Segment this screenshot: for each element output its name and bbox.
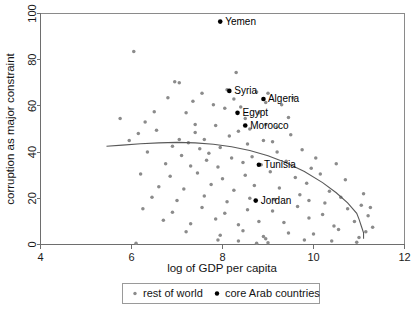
data-point-rest-of-world bbox=[262, 139, 266, 143]
data-point-rest-of-world bbox=[248, 197, 252, 201]
data-point-rest-of-world bbox=[191, 100, 195, 104]
x-tick-label: 10 bbox=[307, 251, 319, 263]
data-point-rest-of-world bbox=[150, 195, 154, 199]
data-point-rest-of-world bbox=[289, 133, 293, 137]
data-point-rest-of-world bbox=[146, 150, 150, 154]
data-point-rest-of-world bbox=[346, 207, 350, 211]
data-point-rest-of-world bbox=[307, 199, 311, 203]
data-point-tunisia bbox=[257, 163, 262, 168]
data-point-rest-of-world bbox=[355, 240, 359, 244]
data-point-rest-of-world bbox=[218, 146, 222, 150]
data-point-rest-of-world bbox=[312, 232, 316, 236]
data-point-rest-of-world bbox=[225, 200, 229, 204]
y-tick-label: 80 bbox=[26, 54, 38, 66]
data-point-morocco bbox=[243, 123, 248, 128]
x-axis-ticks: 4681012 bbox=[37, 245, 410, 263]
y-tick-label: 60 bbox=[26, 100, 38, 112]
data-point-rest-of-world bbox=[344, 178, 348, 182]
data-point-rest-of-world bbox=[164, 162, 168, 166]
data-point-rest-of-world bbox=[189, 222, 193, 226]
y-axis-ticks: 020406080100 bbox=[26, 4, 40, 247]
data-point-rest-of-world bbox=[371, 225, 375, 229]
data-point-rest-of-world bbox=[264, 101, 268, 105]
data-point-rest-of-world bbox=[155, 128, 159, 132]
data-point-rest-of-world bbox=[271, 140, 275, 144]
data-point-rest-of-world bbox=[166, 96, 170, 100]
data-point-rest-of-world bbox=[314, 156, 318, 160]
data-point-label-algeria: Algeria bbox=[268, 93, 300, 104]
data-point-rest-of-world bbox=[362, 192, 366, 196]
data-point-algeria bbox=[261, 97, 266, 102]
legend-marker-core-arab-countries bbox=[215, 291, 219, 295]
data-point-rest-of-world bbox=[184, 111, 188, 115]
y-tick-label: 100 bbox=[26, 4, 38, 22]
plot-frame bbox=[41, 14, 405, 245]
data-point-rest-of-world bbox=[266, 241, 270, 245]
data-point-rest-of-world bbox=[287, 231, 291, 235]
data-point-rest-of-world bbox=[287, 116, 291, 120]
data-point-rest-of-world bbox=[196, 171, 200, 175]
data-point-rest-of-world bbox=[246, 142, 250, 146]
x-tick-label: 6 bbox=[128, 251, 134, 263]
data-point-rest-of-world bbox=[168, 175, 172, 179]
chart-figure: 020406080100 4681012 YemenSyriaAlgeriaEg… bbox=[0, 0, 420, 314]
data-point-rest-of-world bbox=[246, 208, 250, 212]
data-point-rest-of-world bbox=[237, 130, 241, 134]
data-point-rest-of-world bbox=[198, 147, 202, 151]
y-tick-label: 20 bbox=[26, 192, 38, 204]
data-point-rest-of-world bbox=[232, 188, 236, 192]
y-tick-label: 40 bbox=[26, 146, 38, 158]
data-point-rest-of-world bbox=[241, 229, 245, 233]
data-point-rest-of-world bbox=[257, 220, 261, 224]
data-point-rest-of-world bbox=[178, 138, 182, 142]
data-point-rest-of-world bbox=[214, 124, 218, 128]
y-tick-label: 0 bbox=[26, 241, 38, 247]
data-point-syria bbox=[227, 89, 232, 94]
data-point-rest-of-world bbox=[323, 201, 327, 205]
data-point-rest-of-world bbox=[171, 210, 175, 214]
data-point-rest-of-world bbox=[209, 183, 213, 187]
legend-label-core-arab-countries: core Arab countries bbox=[225, 287, 320, 299]
data-point-rest-of-world bbox=[271, 209, 275, 213]
x-tick-label: 4 bbox=[37, 251, 43, 263]
data-point-rest-of-world bbox=[134, 242, 138, 246]
data-point-rest-of-world bbox=[360, 203, 364, 207]
data-point-rest-of-world bbox=[335, 162, 339, 166]
x-tick-label: 12 bbox=[398, 251, 410, 263]
data-point-rest-of-world bbox=[223, 106, 227, 110]
data-point-rest-of-world bbox=[319, 172, 323, 176]
data-point-rest-of-world bbox=[337, 228, 341, 232]
data-point-rest-of-world bbox=[132, 50, 136, 54]
data-point-rest-of-world bbox=[366, 214, 370, 218]
data-point-rest-of-world bbox=[178, 81, 182, 85]
data-point-rest-of-world bbox=[143, 120, 147, 124]
data-point-jordan bbox=[253, 198, 258, 203]
data-point-rest-of-world bbox=[282, 221, 286, 225]
data-point-rest-of-world bbox=[330, 239, 334, 243]
chart-legend: rest of world core Arab countries bbox=[123, 284, 321, 304]
data-point-rest-of-world bbox=[230, 156, 234, 160]
core-arab-country-points: YemenSyriaAlgeriaEgyptMoroccoTunisiaJord… bbox=[218, 16, 300, 206]
data-point-rest-of-world bbox=[141, 207, 145, 211]
data-point-label-morocco: Morocco bbox=[250, 120, 289, 131]
data-point-rest-of-world bbox=[180, 154, 184, 158]
data-point-rest-of-world bbox=[244, 173, 248, 177]
data-point-rest-of-world bbox=[216, 165, 220, 169]
legend-label-rest-of-world: rest of world bbox=[143, 287, 203, 299]
data-point-rest-of-world bbox=[228, 134, 232, 138]
data-point-rest-of-world bbox=[275, 150, 279, 154]
data-point-rest-of-world bbox=[182, 187, 186, 191]
data-point-rest-of-world bbox=[203, 138, 207, 142]
data-point-rest-of-world bbox=[153, 110, 157, 114]
data-point-rest-of-world bbox=[357, 236, 361, 240]
data-point-yemen bbox=[218, 19, 223, 24]
data-point-rest-of-world bbox=[171, 145, 175, 149]
data-point-rest-of-world bbox=[193, 131, 197, 135]
data-point-rest-of-world bbox=[369, 206, 373, 210]
data-point-rest-of-world bbox=[294, 176, 298, 180]
data-point-rest-of-world bbox=[296, 205, 300, 209]
data-point-rest-of-world bbox=[214, 217, 218, 221]
data-point-rest-of-world bbox=[232, 97, 236, 101]
data-point-label-yemen: Yemen bbox=[225, 16, 256, 27]
data-point-rest-of-world bbox=[189, 164, 193, 168]
